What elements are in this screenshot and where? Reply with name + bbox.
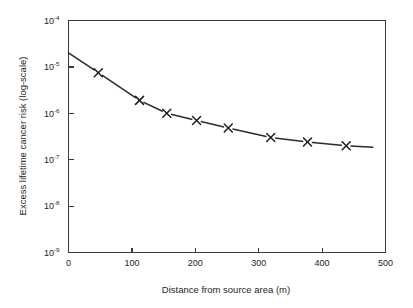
x-tick-label: 500 [378, 258, 393, 268]
x-tick-label: 0 [66, 258, 71, 268]
x-axis-title: Distance from source area (m) [162, 284, 290, 295]
data-point-marker [192, 116, 201, 125]
data-point-marker [94, 68, 103, 77]
chart-figure: 10-410-510-610-710-810-9 010020030040050… [0, 0, 413, 308]
data-point-marker [224, 124, 233, 133]
data-point-marker [135, 96, 144, 105]
data-point-marker [162, 109, 171, 118]
excess-lifetime-cancer-risk-chart: 10-410-510-610-710-810-9 010020030040050… [0, 0, 413, 308]
y-axis-title: Excess lifetime cancer risk (log-scale) [17, 57, 28, 216]
data-point-marker [266, 133, 275, 142]
x-tick-label: 400 [315, 258, 330, 268]
data-point-marker [342, 141, 351, 150]
x-tick-label: 100 [124, 258, 139, 268]
data-point-marker [303, 138, 312, 147]
chart-background [0, 0, 413, 308]
x-tick-label: 300 [251, 258, 266, 268]
x-tick-label: 200 [188, 258, 203, 268]
